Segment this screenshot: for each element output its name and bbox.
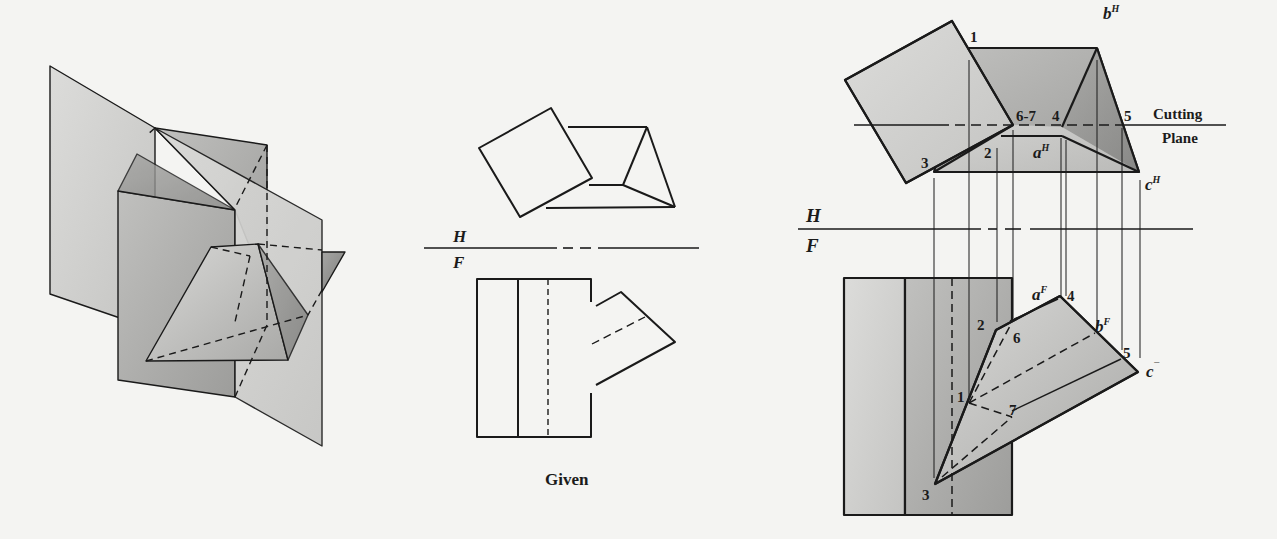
b-f-sup: F [1104, 316, 1111, 327]
solution-view [798, 21, 1226, 515]
c-f-sup: ¯ [1154, 361, 1159, 372]
top-point-1: 1 [970, 30, 978, 45]
top-point-4: 4 [1052, 109, 1060, 124]
top-point-3: 3 [921, 156, 929, 171]
front-point-c: c¯ [1146, 362, 1159, 380]
given-h-label: H [453, 228, 466, 245]
top-point-67: 6-7 [1016, 109, 1036, 124]
front-point-a: aF [1032, 285, 1047, 303]
front-point-4: 4 [1067, 289, 1075, 304]
drawing-canvas [0, 0, 1277, 539]
front-point-b: bF [1095, 317, 1110, 335]
b-h-base: b [1103, 4, 1112, 23]
cutting-plane-label-2: Plane [1162, 131, 1198, 146]
a-f-base: a [1032, 285, 1041, 304]
front-point-5: 5 [1123, 346, 1131, 361]
given-top-square [479, 108, 592, 217]
front-point-3: 3 [922, 488, 930, 503]
top-point-b: bH [1103, 4, 1119, 22]
a-h-base: a [1033, 143, 1042, 162]
given-caption: Given [545, 471, 588, 488]
front-point-6: 6 [1013, 331, 1021, 346]
top-point-c: cH [1145, 175, 1160, 193]
a-h-sup: H [1042, 142, 1050, 153]
b-f-base: b [1095, 317, 1104, 336]
b-h-sup: H [1112, 3, 1120, 14]
solution-f-label: F [806, 236, 819, 255]
a-f-sup: F [1041, 284, 1048, 295]
c-f-base: c [1146, 362, 1154, 381]
pictorial-view [50, 66, 345, 446]
c-h-base: c [1145, 175, 1153, 194]
front-point-2: 2 [977, 318, 985, 333]
cutting-plane-label: Cutting [1153, 107, 1202, 122]
given-f-label: F [453, 254, 464, 271]
given-front-rect [477, 279, 591, 437]
given-view [424, 108, 699, 437]
top-point-5: 5 [1124, 109, 1132, 124]
top-point-a: aH [1033, 143, 1049, 161]
front-point-1: 1 [957, 390, 965, 405]
c-h-sup: H [1153, 174, 1161, 185]
solution-h-label: H [806, 206, 821, 225]
top-point-2: 2 [984, 146, 992, 161]
solution-front-left-panel [844, 278, 905, 515]
side-flap [322, 252, 345, 292]
front-point-7: 7 [1009, 403, 1017, 418]
